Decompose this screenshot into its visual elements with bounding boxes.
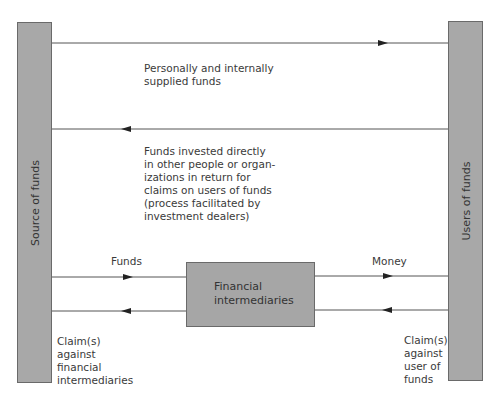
source-of-funds-bar: Source of funds [17, 22, 52, 383]
arrowhead-left-icon [382, 307, 392, 313]
financial-intermediaries-box: Financial intermediaries [186, 262, 315, 327]
direct-flow-label: Personally and internally supplied funds [144, 62, 274, 88]
claims-against-intermediaries-label: Claim(s) against financial intermediarie… [57, 335, 133, 387]
financial-intermediaries-label: Financial intermediaries [214, 280, 294, 308]
claims-against-users-label: Claim(s) against user of funds [404, 334, 448, 386]
arrowhead-right-icon [378, 40, 388, 46]
arrowhead-right-icon [123, 274, 133, 280]
users-of-funds-bar: Users of funds [448, 21, 483, 381]
money-label: Money [372, 255, 407, 268]
source-of-funds-label: Source of funds [28, 160, 41, 246]
claims-flow-label: Funds invested directly in other people … [144, 145, 275, 223]
arrowhead-left-icon [121, 126, 131, 132]
arrowhead-right-icon [383, 273, 393, 279]
funds-label: Funds [111, 255, 142, 268]
arrowhead-left-icon [121, 308, 131, 314]
users-of-funds-label: Users of funds [459, 162, 472, 241]
